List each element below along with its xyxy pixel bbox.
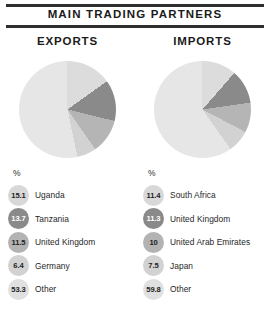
legend-category-label: South Africa <box>170 190 216 200</box>
column-heading-imports: IMPORTS <box>135 35 270 47</box>
legend-category-label: Uganda <box>35 190 65 200</box>
legend-value-badge: 11.3 <box>143 208 164 229</box>
column-heading-exports: EXPORTS <box>0 35 135 47</box>
legend-percent-symbol-exports: % <box>13 168 135 178</box>
legend-row: 6.4Germany <box>8 256 135 276</box>
legend-value-badge: 6.4 <box>8 255 29 276</box>
legend-category-label: Other <box>35 284 56 294</box>
legend-category-label: Japan <box>170 261 193 271</box>
legend-value-badge: 59.8 <box>143 279 164 300</box>
legend-row: 11.5United Kingdom <box>8 232 135 252</box>
legend-rows-imports: 11.4South Africa11.3United Kingdom10Unit… <box>143 185 270 299</box>
legend-category-label: Other <box>170 284 191 294</box>
trading-partners-panel: MAIN TRADING PARTNERS EXPORTS IMPORTS % … <box>0 0 270 318</box>
legend-category-label: United Arab Emirates <box>170 237 250 247</box>
pie-chart-exports <box>19 61 116 158</box>
legend-value-badge: 11.4 <box>143 185 164 206</box>
legend-category-label: United Kingdom <box>35 237 95 247</box>
legend-value-badge: 10 <box>143 232 164 253</box>
legend-value-badge: 7.5 <box>143 255 164 276</box>
legend-category-label: United Kingdom <box>170 214 230 224</box>
legend-row: 59.8Other <box>143 279 270 299</box>
legend-rows-exports: 15.1Uganda13.7Tanzania11.5United Kingdom… <box>8 185 135 299</box>
legend-row: 11.3United Kingdom <box>143 209 270 229</box>
legend-row: 15.1Uganda <box>8 185 135 205</box>
legend-row: 7.5Japan <box>143 256 270 276</box>
legend-value-badge: 13.7 <box>8 208 29 229</box>
legend-value-badge: 53.3 <box>8 279 29 300</box>
pie-chart-imports <box>154 61 251 158</box>
legend-value-badge: 11.5 <box>8 232 29 253</box>
legend-row: 11.4South Africa <box>143 185 270 205</box>
legend-row: 13.7Tanzania <box>8 209 135 229</box>
legend-category-label: Tanzania <box>35 214 69 224</box>
page-title: MAIN TRADING PARTNERS <box>0 7 270 22</box>
legend-value-badge: 15.1 <box>8 185 29 206</box>
legend-percent-symbol-imports: % <box>148 168 270 178</box>
legend-row: 10United Arab Emirates <box>143 232 270 252</box>
legend-exports: % 15.1Uganda13.7Tanzania11.5United Kingd… <box>8 168 135 303</box>
title-rule-bottom <box>6 25 264 28</box>
legend-row: 53.3Other <box>8 279 135 299</box>
legend-imports: % 11.4South Africa11.3United Kingdom10Un… <box>143 168 270 303</box>
legend-category-label: Germany <box>35 261 70 271</box>
